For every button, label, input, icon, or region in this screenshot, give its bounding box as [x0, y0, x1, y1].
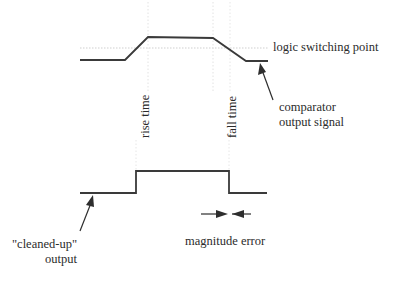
cleaned-up-label-line1: "cleaned-up"	[12, 237, 77, 252]
comparator-arrow-icon	[258, 63, 273, 100]
logic-switching-point-label: logic switching point	[273, 40, 379, 55]
magnitude-error-arrows-icon	[201, 210, 251, 218]
comparator-output-waveform	[80, 37, 268, 61]
cleaned-output-arrow-icon	[80, 195, 94, 231]
cleaned-output-waveform	[80, 171, 267, 193]
rise-time-label: rise time	[138, 95, 153, 138]
cleaned-up-label-line2: output	[45, 252, 77, 267]
fall-time-label: fall time	[225, 96, 240, 138]
magnitude-error-label: magnitude error	[185, 234, 265, 249]
comparator-label-line2: output signal	[279, 115, 344, 130]
comparator-label-line1: comparator	[279, 100, 336, 115]
